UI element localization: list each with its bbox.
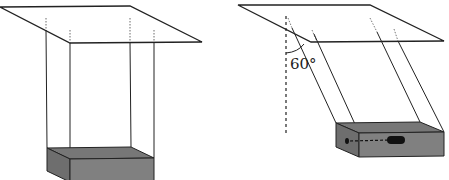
- left-string-1: [46, 30, 47, 148]
- right-panel: 60°: [238, 5, 444, 157]
- right-string-3: [377, 32, 420, 122]
- angle-label: 60°: [290, 55, 317, 73]
- left-string-3: [130, 42, 131, 147]
- left-panel: [0, 6, 202, 180]
- diagram: 60°: [0, 0, 449, 180]
- right-string-4: [398, 41, 444, 132]
- right-box-front: [359, 132, 444, 157]
- left-ceiling-plate: [0, 6, 202, 43]
- right-ceiling-plate: [238, 5, 444, 42]
- box-dot: [345, 138, 349, 144]
- right-string-2: [314, 34, 359, 133]
- left-box-front: [70, 158, 154, 180]
- box-slot: [387, 136, 405, 144]
